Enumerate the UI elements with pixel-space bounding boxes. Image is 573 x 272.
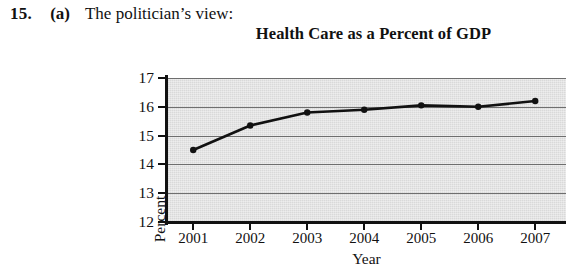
y-tick-mark	[158, 77, 166, 79]
y-tick-mark	[158, 106, 166, 108]
x-tick-mark	[420, 222, 422, 230]
x-tick-label: 2005	[391, 231, 451, 246]
x-tick-label: 2004	[334, 231, 394, 246]
y-tick-mark	[158, 192, 166, 194]
x-tick-mark	[363, 222, 365, 230]
x-tick-label: 2001	[163, 231, 223, 246]
y-tick-mark	[158, 221, 166, 223]
x-tick-label: 2007	[505, 231, 565, 246]
y-tick-mark	[158, 135, 166, 137]
x-tick-mark	[534, 222, 536, 230]
data-point-marker	[304, 109, 310, 115]
data-point-marker	[532, 98, 538, 104]
x-tick-label: 2006	[448, 231, 508, 246]
data-point-marker	[361, 106, 367, 112]
data-point-marker	[190, 147, 196, 153]
x-tick-label: 2003	[277, 231, 337, 246]
x-tick-mark	[249, 222, 251, 230]
x-tick-mark	[306, 222, 308, 230]
x-tick-label: 2002	[220, 231, 280, 246]
x-tick-mark	[192, 222, 194, 230]
data-point-marker	[247, 122, 253, 128]
data-point-marker	[418, 102, 424, 108]
data-point-marker	[475, 104, 481, 110]
y-tick-mark	[158, 163, 166, 165]
x-tick-mark	[477, 222, 479, 230]
line-chart-figure: Health Care as a Percent of GDP 17161514…	[0, 0, 573, 272]
